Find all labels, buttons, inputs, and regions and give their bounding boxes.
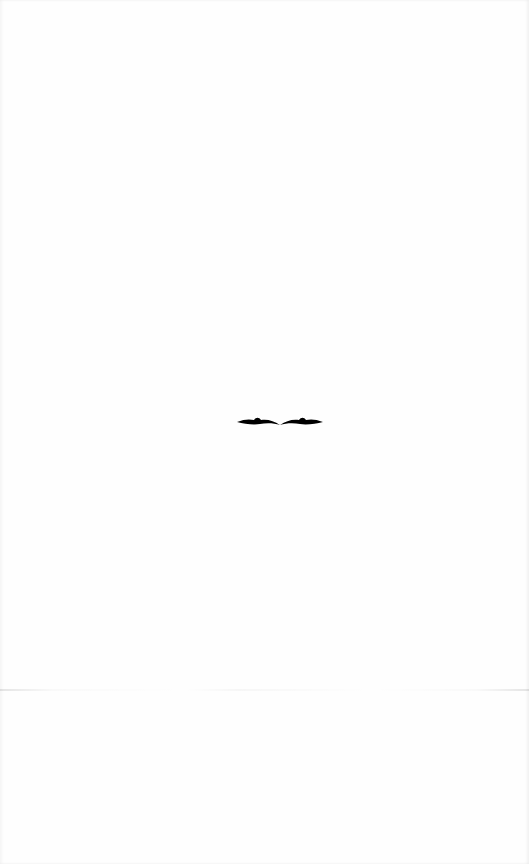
flourish-divider-icon	[236, 413, 324, 431]
page-fold-line	[0, 689, 529, 691]
document-page	[0, 0, 529, 864]
